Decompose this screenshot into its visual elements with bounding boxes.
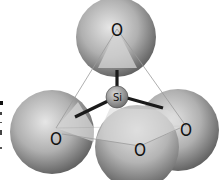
silicon-label: Si <box>113 91 122 104</box>
silicon-atom: Si <box>106 86 128 108</box>
oxygen-label-front: O <box>134 140 146 160</box>
sio4-tetrahedron-diagram: Si O O O O <box>0 0 222 180</box>
cropped-text-fragments <box>0 101 3 149</box>
oxygen-label-top: O <box>111 20 123 40</box>
oxygen-label-left: O <box>50 129 62 149</box>
oxygen-label-right: O <box>180 120 192 140</box>
